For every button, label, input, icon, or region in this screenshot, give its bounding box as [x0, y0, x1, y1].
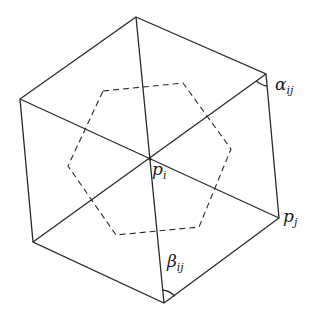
alpha-angle-arc — [256, 81, 267, 86]
alpha-ij-label: αij — [275, 76, 293, 96]
p-i-label: pi — [152, 161, 166, 181]
p-j-label: pj — [283, 208, 297, 228]
cotangent-weight-diagram: αij βij pi pj — [0, 0, 314, 323]
beta-ij-label: βij — [167, 253, 184, 273]
beta-angle-arc — [162, 290, 175, 296]
